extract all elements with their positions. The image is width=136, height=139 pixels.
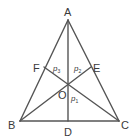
region-label-p1: p1 bbox=[70, 94, 78, 104]
region-label-p2: p2 bbox=[73, 64, 81, 74]
vertex-label-a: A bbox=[64, 6, 72, 18]
vertex-label-b: B bbox=[8, 119, 15, 131]
point-label-o: O bbox=[58, 89, 67, 101]
side-ab bbox=[20, 20, 68, 121]
vertex-label-c: C bbox=[121, 119, 129, 131]
point-label-e: E bbox=[93, 62, 100, 74]
triangle-diagram: A B C D E F O p3 p2 p1 bbox=[0, 0, 136, 139]
point-label-d: D bbox=[64, 126, 72, 138]
triangle-figure: A B C D E F O p3 p2 p1 bbox=[0, 0, 136, 139]
region-label-p3: p3 bbox=[52, 64, 60, 74]
p3-sub: 3 bbox=[57, 68, 60, 74]
p1-sub: 1 bbox=[75, 98, 78, 104]
point-label-f: F bbox=[33, 62, 40, 74]
p2-sub: 2 bbox=[78, 68, 81, 74]
